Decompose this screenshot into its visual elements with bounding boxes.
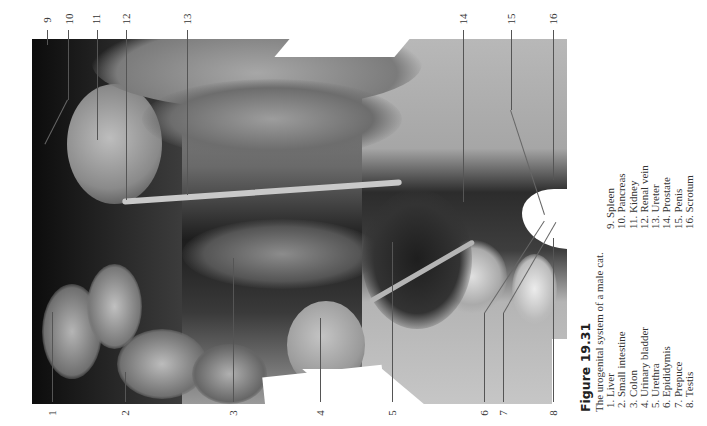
- photo-pelvic-dark: [362, 189, 472, 329]
- legend-item: 2. Small intestine: [616, 327, 627, 408]
- photo-cutout: [552, 339, 567, 404]
- figure-title: Figure 19.31: [578, 323, 593, 412]
- photo-cutout: [274, 39, 409, 57]
- photo-testis: [512, 254, 557, 324]
- leader-line-16: [553, 30, 554, 180]
- dissection-photo: [32, 39, 567, 404]
- label-2: 2: [119, 403, 131, 423]
- label-7: 7: [497, 403, 509, 423]
- label-1: 1: [46, 403, 58, 423]
- label-12: 12: [120, 9, 132, 29]
- legend-item: 10. Pancreas: [616, 165, 627, 229]
- label-10: 10: [63, 9, 75, 29]
- label-6: 6: [478, 403, 490, 423]
- leader-line-6: [484, 313, 485, 402]
- leader-line-3: [233, 258, 234, 402]
- label-5: 5: [386, 403, 398, 423]
- label-8: 8: [547, 403, 559, 423]
- leader-line-14: [463, 30, 464, 202]
- leader-line-7: [503, 313, 504, 402]
- photo-colon: [182, 219, 382, 289]
- leader-line-15: [511, 30, 512, 110]
- legend-item: 8. Testis: [684, 327, 695, 408]
- photo-kidney: [67, 84, 162, 204]
- label-15: 15: [505, 9, 517, 29]
- label-3: 3: [227, 403, 239, 423]
- label-9: 9: [41, 10, 53, 30]
- label-16: 16: [547, 9, 559, 29]
- leader-line-13: [187, 30, 188, 195]
- photo-muscle-band: [142, 79, 402, 159]
- label-14: 14: [457, 9, 469, 29]
- leader-line-1: [52, 312, 53, 402]
- photo-intestine-loop: [192, 344, 267, 404]
- legend-item: 16. Scrotum: [684, 165, 695, 229]
- leader-line-9: [47, 30, 48, 45]
- leader-line-4: [320, 318, 321, 402]
- leader-line-10: [68, 30, 69, 100]
- leader-line-5: [392, 242, 393, 402]
- leader-line-8: [553, 238, 554, 402]
- label-13: 13: [181, 9, 193, 29]
- legend-column-right: 9. Spleen 10. Pancreas 11. Kidney 12. Re…: [605, 165, 695, 229]
- label-11: 11: [90, 9, 102, 29]
- leader-line-12: [126, 30, 127, 200]
- leader-line-11: [97, 30, 98, 140]
- label-4: 4: [314, 403, 326, 423]
- leader-line-2: [125, 372, 126, 402]
- legend-column-left: 1. Liver 2. Small intestine 3. Colon 4. …: [605, 327, 695, 408]
